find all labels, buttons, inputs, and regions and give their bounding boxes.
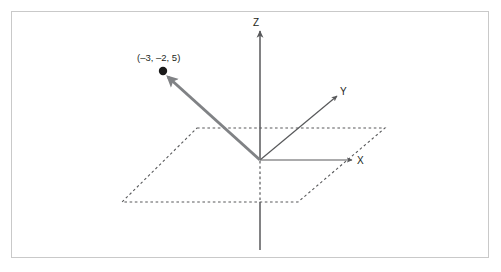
z-axis-label: Z (253, 17, 259, 28)
point-marker (159, 67, 167, 75)
xy-plane-parallelogram (122, 128, 385, 202)
figure-container: Z Y X (–3, –2, 5) (0, 0, 501, 272)
position-vector-line (168, 77, 260, 160)
coordinate-diagram-svg: Z Y X (–3, –2, 5) (0, 0, 501, 272)
xy-plane-group (122, 128, 385, 202)
y-axis-label: Y (340, 86, 347, 97)
point-coordinate-label: (–3, –2, 5) (137, 52, 180, 63)
x-axis-label: X (357, 155, 364, 166)
